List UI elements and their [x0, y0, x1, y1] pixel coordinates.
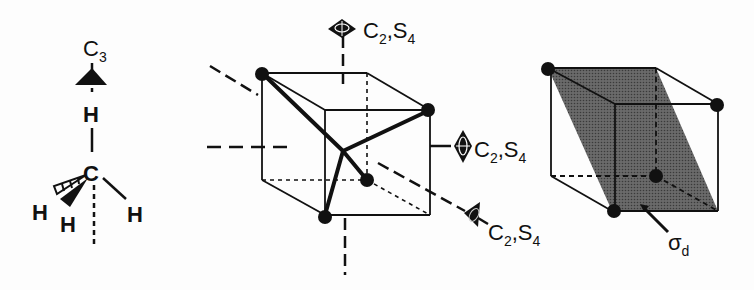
- figure-canvas: C3 H C H H H: [0, 0, 754, 290]
- symmetry-figure: C3 H C H H H: [0, 0, 754, 290]
- axis-diagonal-lower: [378, 163, 465, 211]
- atom-corner-bottom-2: [607, 204, 621, 218]
- atom-corner-right: [421, 103, 435, 117]
- axis-label-diagonal: C2,S4: [488, 220, 540, 249]
- s4-axis-symbol-top-icon: [328, 19, 356, 38]
- atom-corner-back: [360, 173, 374, 187]
- methane-panel: C3 H C H H H: [32, 36, 143, 246]
- atom-corner-bottom: [318, 210, 332, 224]
- atom-h-front: H: [60, 212, 76, 237]
- sigma-d-label: σd: [668, 230, 689, 259]
- bond-c-h-right: [103, 178, 126, 199]
- atom-h-top: H: [83, 102, 99, 127]
- cube-axes-panel: C2,S4 C2,S4 C2,S4: [207, 18, 540, 275]
- atom-c: C: [83, 161, 99, 186]
- atom-corner-right-2: [710, 98, 724, 112]
- atom-corner-top-left: [255, 67, 269, 81]
- axis-label-top: C2,S4: [363, 18, 415, 47]
- cube-edges: [262, 73, 430, 215]
- atom-corner-top-left-2: [541, 62, 555, 76]
- mirror-plane-panel: σd: [541, 62, 724, 259]
- s4-axis-symbol-right-icon: [454, 130, 472, 163]
- atom-corner-back-2: [649, 169, 663, 183]
- s4-axis-symbol-diagonal-icon: [464, 202, 488, 227]
- c3-axis-triangle-icon: [75, 68, 107, 85]
- atom-h-left: H: [32, 200, 48, 225]
- atom-h-right: H: [127, 202, 143, 227]
- axis-diagonal-upper: [210, 66, 258, 95]
- c3-label: C3: [83, 36, 107, 65]
- axis-label-right: C2,S4: [474, 137, 526, 166]
